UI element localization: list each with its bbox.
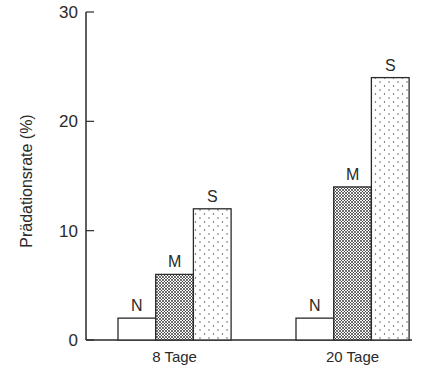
bar-s [193, 209, 231, 340]
bar-m [156, 274, 194, 340]
bar-series-label: N [309, 297, 321, 314]
x-category-label: 20 Tage [326, 348, 379, 365]
y-tick-label: 20 [59, 112, 78, 131]
bar-series-label: S [385, 57, 396, 74]
bar-m [334, 187, 372, 340]
y-tick-label: 10 [59, 222, 78, 241]
bar-series-label: S [207, 188, 218, 205]
x-category-label: 8 Tage [152, 348, 197, 365]
bar-series-label: M [346, 166, 359, 183]
bars [118, 78, 409, 340]
y-tick-label: 30 [59, 3, 78, 22]
bar-series-label: N [131, 297, 143, 314]
bar-chart: 0102030Prädationsrate (%) NMS8 TageNMS20… [0, 0, 426, 388]
bar-n [296, 318, 334, 340]
bar-n [118, 318, 156, 340]
y-tick-label: 0 [69, 331, 78, 350]
y-axis-title: Prädationsrate (%) [18, 114, 35, 247]
bar-s [371, 78, 409, 340]
bar-series-label: M [168, 253, 181, 270]
